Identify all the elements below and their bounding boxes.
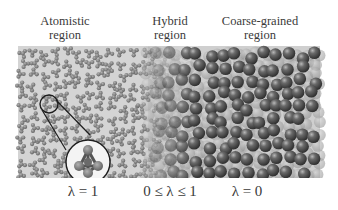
lambda-atomistic: λ = 1 [58,183,108,200]
label-hybrid-region: Hybridregion [140,14,200,42]
lambda-coarse-grained: λ = 0 [222,183,272,200]
lambda-hybrid: 0 ≤ λ ≤ 1 [130,183,210,200]
label-coarse-grained-region: Coarse-grainedregion [205,14,315,42]
label-atomistic-region: Atomisticregion [20,14,110,42]
